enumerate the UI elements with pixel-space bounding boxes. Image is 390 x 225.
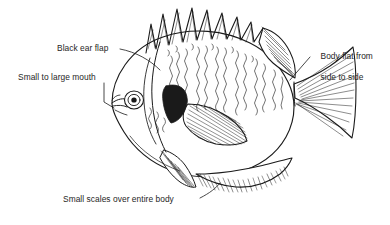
- eye: [125, 91, 144, 109]
- label-body-flat: Body flat from side to side: [311, 41, 373, 93]
- label-body-flat-line1: Body flat from: [321, 51, 373, 61]
- fish-illustration: [0, 0, 390, 225]
- label-body-flat-line2: side to side: [321, 72, 364, 82]
- label-small-scales: Small scales over entire body: [63, 194, 174, 204]
- label-small-to-large-mouth: Small to large mouth: [18, 72, 96, 82]
- label-black-ear-flap: Black ear flap: [57, 43, 108, 53]
- fish-anatomy-figure: Black ear flap Small to large mouth Body…: [0, 0, 390, 225]
